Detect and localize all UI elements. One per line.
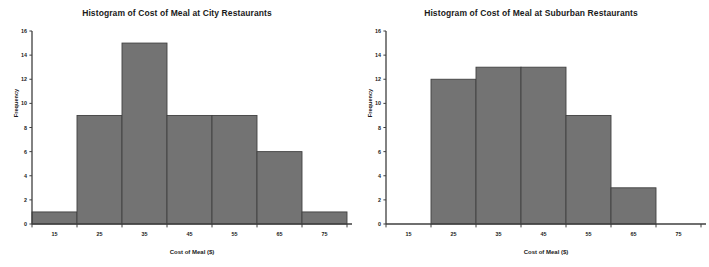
- histogram-bar: [611, 188, 656, 224]
- y-axis-tick-label: 2: [378, 197, 381, 203]
- histogram-bar: [122, 43, 167, 224]
- y-axis-tick-label: 14: [21, 52, 27, 58]
- y-axis-tick-label: 6: [378, 149, 381, 155]
- histogram-bar: [212, 115, 257, 224]
- y-axis-tick-label: 0: [24, 221, 27, 227]
- x-axis-tick-label: 45: [541, 231, 547, 237]
- chart-plot-suburban: 024681012141615253545556575: [354, 0, 708, 267]
- x-axis-title-city: Cost of Meal ($): [32, 249, 352, 255]
- x-axis-tick-label: 45: [187, 231, 193, 237]
- y-axis-tick-label: 14: [375, 52, 381, 58]
- x-axis-tick-label: 15: [406, 231, 412, 237]
- x-axis-title-suburban: Cost of Meal ($): [386, 249, 706, 255]
- x-axis-tick-label: 15: [52, 231, 58, 237]
- y-axis-tick-label: 6: [24, 149, 27, 155]
- y-axis-tick-label: 10: [375, 100, 381, 106]
- y-axis-tick-label: 8: [378, 125, 381, 131]
- y-axis-tick-label: 8: [24, 125, 27, 131]
- y-axis-tick-label: 2: [24, 197, 27, 203]
- y-axis-title-suburban: Frequency: [367, 73, 373, 133]
- x-axis-tick-label: 65: [277, 231, 283, 237]
- x-axis-tick-label: 25: [97, 231, 103, 237]
- histogram-bar: [521, 67, 566, 224]
- histogram-bar: [77, 115, 122, 224]
- y-axis-tick-label: 0: [378, 221, 381, 227]
- chart-plot-city: 024681012141615253545556575: [0, 0, 354, 267]
- x-axis-tick-label: 75: [676, 231, 682, 237]
- y-axis-tick-label: 16: [21, 28, 27, 34]
- histogram-bar: [431, 79, 476, 224]
- y-axis-tick-label: 10: [21, 100, 27, 106]
- y-axis-tick-label: 4: [24, 173, 27, 179]
- x-axis-tick-label: 55: [232, 231, 238, 237]
- x-axis-tick-label: 55: [586, 231, 592, 237]
- histogram-bar: [566, 115, 611, 224]
- y-axis-tick-label: 4: [378, 173, 381, 179]
- histogram-bar: [476, 67, 521, 224]
- histogram-bar: [257, 152, 302, 224]
- histogram-bar: [32, 212, 77, 224]
- chart-panel-city: Histogram of Cost of Meal at City Restau…: [0, 0, 354, 267]
- histogram-pair-figure: Histogram of Cost of Meal at City Restau…: [0, 0, 709, 267]
- y-axis-tick-label: 12: [375, 76, 381, 82]
- y-axis-tick-label: 12: [21, 76, 27, 82]
- chart-panel-suburban: Histogram of Cost of Meal at Suburban Re…: [354, 0, 708, 267]
- x-axis-tick-label: 35: [142, 231, 148, 237]
- histogram-bar: [167, 115, 212, 224]
- x-axis-tick-label: 65: [631, 231, 637, 237]
- x-axis-tick-label: 75: [322, 231, 328, 237]
- x-axis-tick-label: 35: [496, 231, 502, 237]
- histogram-bar: [302, 212, 347, 224]
- y-axis-tick-label: 16: [375, 28, 381, 34]
- x-axis-tick-label: 25: [451, 231, 457, 237]
- y-axis-title-city: Frequency: [13, 73, 19, 133]
